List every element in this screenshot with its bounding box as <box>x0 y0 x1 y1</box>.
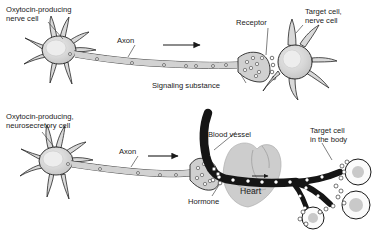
label-body-target-cell-line1: Target cell <box>310 126 345 135</box>
leader-axon-top <box>128 45 135 57</box>
label-hormone: Hormone <box>188 197 219 206</box>
label-axon-bottom: Axon <box>119 147 136 156</box>
label-body-target-cell-line2: in the body <box>310 135 347 144</box>
label-axon-top: Axon <box>117 36 134 45</box>
leader-body-target-cell <box>322 143 332 160</box>
diagram-canvas: Oxytocin-producing nerve cell Axon Recep… <box>0 0 380 231</box>
target-neuron-nucleus-top <box>283 50 301 68</box>
label-target-cell-top-line2: nerve cell <box>305 16 338 25</box>
label-heart: Heart <box>240 186 262 196</box>
oxytocin-signaling-figure: Oxytocin-producing nerve cell Axon Recep… <box>0 0 380 231</box>
label-blood-vessel: Blood vessel <box>208 130 251 139</box>
leader-axon-bottom <box>131 156 138 167</box>
label-source-cell-top-line2: nerve cell <box>6 14 39 23</box>
leader-receptor-top <box>266 28 268 55</box>
source-neuron-nucleus-bottom <box>43 151 63 167</box>
body-target-cells <box>302 159 371 229</box>
source-neuron-nucleus-top <box>46 40 66 56</box>
blood-vessel-branch-upper <box>296 172 340 182</box>
body-target-cell-1-nucleus <box>352 166 364 178</box>
label-source-cell-bottom-line2: neurosecretory cell <box>6 121 70 130</box>
label-signaling-substance: Signaling substance <box>152 81 220 90</box>
leader-target-cell-top <box>296 25 303 33</box>
label-receptor: Receptor <box>236 18 267 27</box>
body-target-cell-2-nucleus <box>349 198 363 212</box>
label-source-cell-top-line1: Oxytocin-producing <box>6 5 71 14</box>
label-target-cell-top-line1: Target cell, <box>305 7 342 16</box>
body-target-cell-3-nucleus <box>308 213 318 223</box>
label-source-cell-bottom-line1: Oxytocin-producing, <box>6 112 74 121</box>
